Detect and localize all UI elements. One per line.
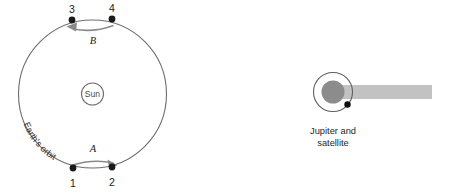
satellite-dot (344, 101, 350, 107)
earth-position-3-label: 3 (69, 3, 75, 15)
sun-label: Sun (85, 89, 101, 99)
earth-position-4-dot (109, 16, 116, 23)
motion-arrow-a: A (71, 143, 118, 168)
motion-arrow-a-label: A (89, 143, 97, 154)
earth-position-4-label: 4 (109, 2, 115, 14)
earth-orbit-caption: Earth's orbit (22, 121, 59, 162)
earth-position-2: 2 (109, 164, 116, 188)
motion-arrow-a-arc (71, 161, 114, 165)
jupiter-caption-line-1: Jupiter and (310, 126, 356, 136)
earth-position-2-label: 2 (109, 176, 115, 188)
earth-orbit-caption-text: Earth's orbit (22, 121, 59, 162)
motion-arrow-b-arc (74, 26, 114, 31)
earth-position-1-label: 1 (70, 177, 76, 189)
earth-orbit-diagram: Sun Earth's orbit A B (19, 2, 167, 189)
earth-position-3-dot (69, 17, 76, 24)
jupiter-diagram: Jupiter and satellite (310, 73, 432, 149)
jupiter-caption-line-2: satellite (317, 138, 349, 148)
jupiter-body (322, 81, 345, 104)
orbital-diagram-svg: Sun Earth's orbit A B (0, 0, 451, 193)
earth-position-1: 1 (70, 165, 77, 189)
earth-position-1-dot (70, 165, 77, 172)
earth-position-3: 3 (69, 3, 76, 23)
figure-canvas: Sun Earth's orbit A B (0, 0, 451, 193)
motion-arrow-b: B (67, 23, 114, 47)
motion-arrow-b-label: B (90, 35, 97, 46)
earth-position-4: 4 (109, 2, 116, 22)
jupiter-shadow-band (333, 85, 432, 99)
earth-position-2-dot (109, 164, 116, 171)
